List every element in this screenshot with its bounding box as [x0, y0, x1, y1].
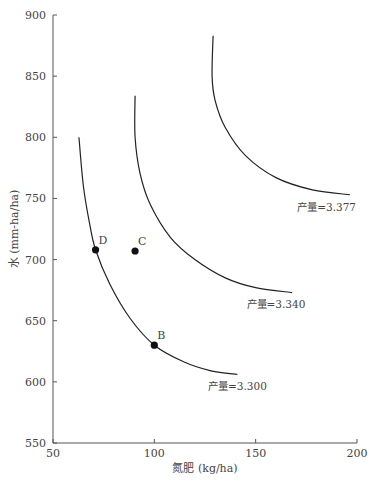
point-b: [151, 342, 158, 349]
isoquant-curve-3: [212, 36, 350, 195]
x-tick-label: 50: [46, 447, 60, 460]
curve-label-1: 产量=3.300: [208, 380, 267, 392]
x-axis-title: 氮肥 (kg/ha): [172, 461, 237, 475]
y-tick-label: 850: [25, 70, 46, 83]
point-d: [92, 246, 99, 253]
x-tick-label: 200: [347, 447, 368, 460]
point-label-c: C: [138, 235, 146, 248]
point-label-b: B: [157, 329, 165, 342]
point-label-d: D: [99, 234, 108, 247]
curve-label-3: 产量=3.377: [297, 201, 356, 213]
y-tick-label: 700: [25, 254, 46, 267]
y-tick-label: 600: [25, 376, 46, 389]
x-tick-label: 100: [144, 447, 165, 460]
isoquant-chart: 55060065070075080085090050100150200 DCB …: [0, 0, 377, 491]
point-c: [131, 247, 138, 254]
y-tick-label: 550: [25, 437, 46, 450]
data-points: DCB: [92, 234, 165, 349]
x-tick-label: 150: [245, 447, 266, 460]
curve-label-2: 产量=3.340: [247, 298, 306, 310]
isoquant-curve-2: [135, 96, 292, 293]
y-tick-label: 650: [25, 315, 46, 328]
y-tick-label: 800: [25, 131, 46, 144]
y-tick-label: 750: [25, 192, 46, 205]
axes: 55060065070075080085090050100150200: [25, 9, 368, 460]
y-axis-title: 水 (mm-ha/ha): [8, 190, 21, 269]
y-tick-label: 900: [25, 9, 46, 22]
curve-labels: 产量=3.300产量=3.340产量=3.377: [208, 201, 356, 393]
